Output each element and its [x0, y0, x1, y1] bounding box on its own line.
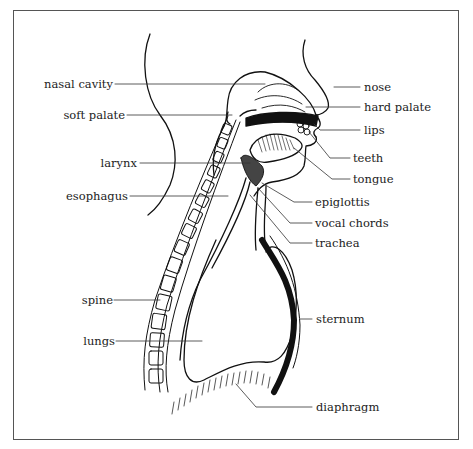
label-nasal-cavity: nasal cavity: [44, 77, 113, 91]
label-nose: nose: [364, 80, 391, 94]
label-vocal-chords: vocal chords: [315, 216, 389, 230]
diaphragm-hatching: [172, 371, 270, 414]
face-profile: [303, 40, 328, 115]
hard-palate-shape: [246, 112, 318, 126]
head-back-outline: [145, 34, 175, 215]
label-diaphragm: diaphragm: [316, 400, 379, 414]
lungs-outline: [184, 240, 297, 382]
label-esophagus: esophagus: [66, 189, 128, 203]
label-soft-palate: soft palate: [63, 108, 125, 122]
lower-lip-chin: [254, 137, 316, 196]
label-lungs: lungs: [83, 334, 115, 348]
anatomy-drawing: [0, 0, 473, 449]
label-trachea: trachea: [315, 236, 359, 250]
esophagus-tube: [180, 178, 246, 360]
label-lips: lips: [364, 123, 385, 137]
label-teeth: teeth: [353, 151, 383, 165]
label-spine: spine: [82, 293, 113, 307]
trachea-tube: [255, 188, 258, 250]
label-epiglottis: epiglottis: [315, 195, 370, 209]
label-sternum: sternum: [316, 312, 365, 326]
label-larynx: larynx: [101, 156, 137, 170]
label-tongue: tongue: [353, 172, 394, 186]
label-hard-palate: hard palate: [364, 100, 431, 114]
